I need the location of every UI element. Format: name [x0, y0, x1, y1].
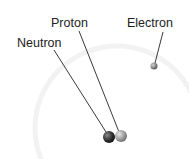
neutron-label: Neutron — [17, 37, 61, 50]
electron-particle — [151, 63, 158, 70]
neutron-particle — [103, 131, 115, 143]
proton-particle — [115, 130, 127, 142]
electron-label: Electron — [127, 17, 173, 30]
proton-label: Proton — [51, 17, 88, 30]
neutron-leader-line — [54, 50, 106, 132]
